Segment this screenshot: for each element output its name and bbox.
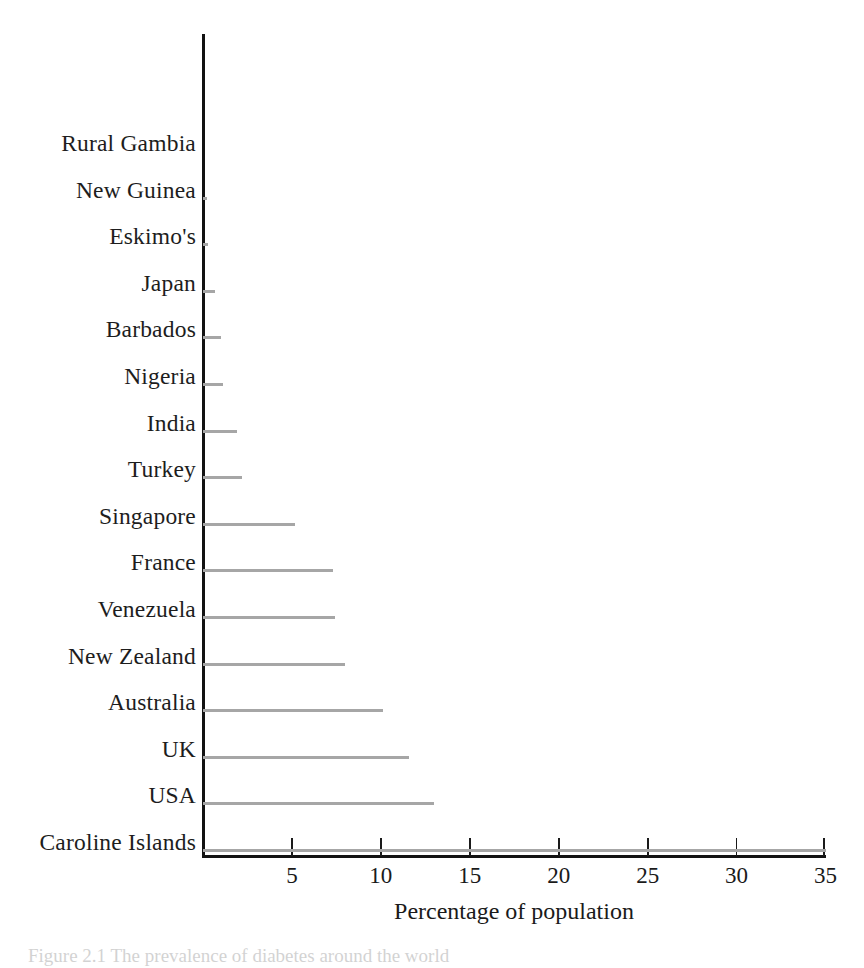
category-label-venezuela: Venezuela <box>98 596 196 622</box>
bar-india <box>203 430 237 433</box>
bar-singapore <box>203 523 295 526</box>
category-label-japan: Japan <box>141 270 196 296</box>
x-tick-label-20: 20 <box>529 862 589 890</box>
bar-barbados <box>203 336 221 339</box>
x-axis-line <box>202 855 826 858</box>
x-tick-5 <box>291 838 293 856</box>
bar-uk <box>203 756 409 759</box>
category-label-eskimo-s: Eskimo's <box>109 223 196 249</box>
category-label-singapore: Singapore <box>99 503 196 529</box>
x-tick-25 <box>647 838 649 856</box>
category-label-usa: USA <box>148 782 196 808</box>
category-label-australia: Australia <box>108 689 196 715</box>
category-label-france: France <box>131 549 196 575</box>
category-label-barbados: Barbados <box>106 316 196 342</box>
bar-caroline-islands <box>203 849 826 852</box>
x-tick-label-25: 25 <box>618 862 678 890</box>
x-tick-30 <box>736 838 738 856</box>
category-label-new-zealand: New Zealand <box>68 643 196 669</box>
bar-nigeria <box>203 383 223 386</box>
bar-france <box>203 569 333 572</box>
bar-australia <box>203 709 383 712</box>
x-tick-20 <box>558 838 560 856</box>
category-label-uk: UK <box>162 736 196 762</box>
bar-new-guinea <box>203 197 207 200</box>
x-tick-35 <box>823 838 825 856</box>
bar-venezuela <box>203 616 335 619</box>
x-tick-label-5: 5 <box>262 862 322 890</box>
x-axis-title: Percentage of population <box>202 896 826 926</box>
bar-new-zealand <box>203 663 345 666</box>
bar-eskimo-s <box>203 243 208 246</box>
y-axis-line <box>202 34 205 858</box>
x-tick-label-15: 15 <box>440 862 500 890</box>
x-tick-label-10: 10 <box>351 862 411 890</box>
category-label-india: India <box>147 410 196 436</box>
category-label-rural-gambia: Rural Gambia <box>61 130 196 156</box>
figure-caption: Figure 2.1 The prevalence of diabetes ar… <box>28 944 848 968</box>
x-tick-label-35: 35 <box>796 862 856 890</box>
category-label-new-guinea: New Guinea <box>76 177 196 203</box>
x-tick-10 <box>380 838 382 856</box>
x-tick-15 <box>469 838 471 856</box>
category-label-turkey: Turkey <box>128 456 196 482</box>
x-tick-label-30: 30 <box>707 862 767 890</box>
bar-usa <box>203 802 434 805</box>
category-label-caroline-islands: Caroline Islands <box>39 829 196 855</box>
bar-japan <box>203 290 215 293</box>
category-labels: Rural GambiaNew GuineaEskimo'sJapanBarba… <box>0 0 196 960</box>
category-label-nigeria: Nigeria <box>124 363 196 389</box>
bar-turkey <box>203 476 242 479</box>
